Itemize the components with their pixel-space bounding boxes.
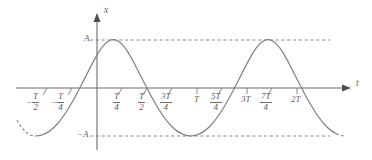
- tick-den-t-over-2: 2: [138, 103, 145, 112]
- tick-num-three-t-over-4: 3T: [160, 92, 172, 101]
- amplitude-positive-label: A: [84, 34, 90, 43]
- t-axis-arrow-icon: [342, 84, 351, 91]
- tick-num-t-over-4: T: [113, 92, 120, 101]
- tick-den-neg-t-over-4: 4: [57, 103, 64, 112]
- tick-num-five-t-over-4: 5T: [210, 92, 222, 101]
- tick-label-neg-t-over-2: −T2: [26, 92, 39, 112]
- tick-label-t: T: [194, 95, 199, 104]
- tick-den-t-over-4: 4: [113, 103, 120, 112]
- tick-label-neg-t-over-4: −T4: [51, 92, 64, 112]
- tick-num-seven-t-over-4: 7T: [260, 92, 272, 101]
- tick-label-five-t-over-4: 5T4: [210, 92, 222, 112]
- tick-den-five-t-over-4: 4: [210, 103, 222, 112]
- curve-dashed-left: [17, 120, 36, 136]
- curve-dashed-right: [336, 134, 345, 136]
- tick-num-neg-t-over-4: T: [57, 92, 64, 101]
- tick-label-two-t: 2T: [291, 95, 301, 104]
- tick-label-three-t-over-4: 3T4: [160, 92, 172, 112]
- tick-label-t-over-2: T2: [138, 92, 145, 112]
- x-axis: [93, 13, 100, 150]
- tick-num-neg-t-over-2: T: [32, 92, 39, 101]
- tick-den-neg-t-over-2: 2: [32, 103, 39, 112]
- tick-label-t-over-4: T4: [113, 92, 120, 112]
- y-axis-label: x: [104, 6, 108, 16]
- tick-den-three-t-over-4: 4: [160, 103, 172, 112]
- x-axis-label: t: [356, 79, 359, 89]
- tick-num-t-over-2: T: [138, 92, 145, 101]
- tick-label-three-t: 3T: [241, 95, 251, 104]
- oscillation-graph-figure: x t A −A −T2 −T4 T4 T2 3T4 T 5T4 3T 7T4 …: [0, 0, 372, 160]
- tick-den-seven-t-over-4: 4: [260, 103, 272, 112]
- amplitude-negative-label: −A: [77, 130, 89, 139]
- x-axis-arrow-icon: [93, 13, 100, 22]
- cosine-wave-plot: [0, 0, 372, 160]
- tick-label-seven-t-over-4: 7T4: [260, 92, 272, 112]
